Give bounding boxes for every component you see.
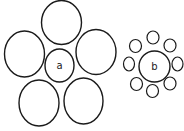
surround-circle xyxy=(147,85,159,98)
surround-circle xyxy=(76,30,116,75)
surround-circle xyxy=(130,40,142,53)
surround-circle xyxy=(172,57,183,71)
surround-circle xyxy=(124,57,135,71)
surround-circle xyxy=(19,80,59,126)
ebbinghaus-illusion-diagram: a b xyxy=(0,0,184,131)
surround-circle xyxy=(164,77,176,90)
center-label-b: b xyxy=(151,61,157,72)
center-label-a: a xyxy=(56,60,62,71)
surround-circle xyxy=(131,78,143,91)
surround-circle xyxy=(5,31,45,77)
surround-circle xyxy=(42,1,82,45)
surround-circle xyxy=(64,78,103,124)
surround-circle xyxy=(164,39,176,52)
surround-circle xyxy=(147,31,159,44)
